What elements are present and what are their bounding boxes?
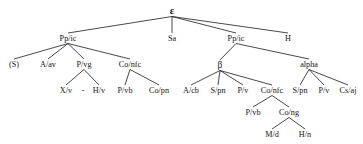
tree-edge-ppic-l-to-a-av <box>48 44 68 60</box>
tree-edge-co-nfc-l-to-co-pn <box>130 70 159 86</box>
tree-edge-beta-to-co-nfc-r <box>220 71 272 86</box>
tree-node-co-nfc-r: Co/nfc <box>261 86 284 95</box>
tree-edge-ppic-r-to-alpha <box>236 44 309 60</box>
tree-node-h: H <box>285 34 291 43</box>
tree-node-h-n: H/n <box>299 130 311 139</box>
tree-edge-beta-to-p-v-1 <box>220 71 243 86</box>
tree-node-p-vb-l: P/vb <box>117 86 132 95</box>
tree-node-s-pn-1: S/pn <box>210 86 225 95</box>
tree-node-a-av: A/av <box>40 60 57 69</box>
tree-edge-co-nfc-r-to-co-ng <box>272 96 289 108</box>
tree-node-root: ε <box>170 5 175 16</box>
tree-edge-p-vg-to-h-v <box>84 70 99 86</box>
tree-edge-root-to-ppic-l <box>68 17 172 34</box>
tree-node-h-v: H/v <box>93 86 106 95</box>
tree-edge-alpha-to-p-v-2 <box>309 70 324 86</box>
tree-node-ppic-r: Pp/ic <box>228 34 245 43</box>
tree-edge-ppic-r-to-beta <box>220 44 236 61</box>
tree-edge-beta-to-a-cb <box>191 71 220 86</box>
tree-edge-alpha-to-s-pn-2 <box>300 70 309 86</box>
tree-edge-co-ng-to-h-n <box>289 118 305 130</box>
syntax-tree-diagram: εPp/icSaPp/icH(S)A/avP/vgCo/nfcβalphaX/v… <box>0 0 363 144</box>
tree-edge-co-nfc-l-to-p-vb-l <box>125 70 130 86</box>
tree-node-p-v-1: P/v <box>238 86 250 95</box>
tree-edge-ppic-l-to-co-nfc-l <box>68 44 130 60</box>
tree-separator-layer: - <box>82 86 85 95</box>
tree-node-ppic-l: Pp/ic <box>60 34 77 43</box>
tree-node-p-v-2: P/v <box>319 86 331 95</box>
tree-node-s-pn-2: S/pn <box>292 86 307 95</box>
tree-edge-co-ng-to-m-d <box>272 118 289 130</box>
tree-node-a-cb: A/cb <box>183 86 199 95</box>
tree-edge-beta-to-s-pn-1 <box>218 71 220 86</box>
tree-canvas: εPp/icSaPp/icH(S)A/avP/vgCo/nfcβalphaX/v… <box>0 0 363 144</box>
tree-edge-root-to-ppic-r <box>172 17 236 34</box>
tree-node-p-vg: P/vg <box>76 60 91 69</box>
tree-node-m-d: M/d <box>265 130 279 139</box>
tree-node-sa: Sa <box>168 34 177 43</box>
tree-edge-root-to-h <box>172 17 288 34</box>
tree-separator-sep-xv-hv: - <box>82 86 85 95</box>
tree-node-co-ng: Co/ng <box>279 108 299 117</box>
tree-edge-ppic-l-to-s-paren <box>14 44 68 60</box>
tree-edge-co-nfc-r-to-p-vb-r <box>253 96 272 108</box>
tree-node-cs-aj: Cs/aj <box>340 86 357 95</box>
tree-node-p-vb-r: P/vb <box>245 108 260 117</box>
tree-node-layer: εPp/icSaPp/icH(S)A/avP/vgCo/nfcβalphaX/v… <box>9 5 356 139</box>
tree-node-beta: β <box>218 60 223 70</box>
tree-node-x-v: X/v <box>60 86 73 95</box>
tree-node-alpha: alpha <box>300 60 318 69</box>
tree-edge-alpha-to-cs-aj <box>309 70 348 86</box>
tree-edge-p-vg-to-x-v <box>66 70 84 86</box>
tree-node-co-pn: Co/pn <box>149 86 169 95</box>
tree-node-co-nfc-l: Co/nfc <box>119 60 142 69</box>
tree-node-s-paren: (S) <box>9 60 19 69</box>
